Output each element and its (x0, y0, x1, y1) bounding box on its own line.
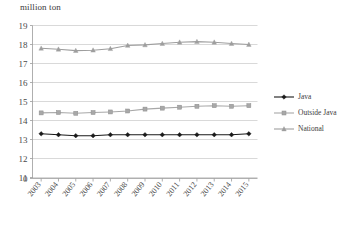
data-point (56, 111, 60, 115)
data-point (108, 110, 112, 114)
x-axis-tick-label: 2004 (43, 180, 60, 198)
data-point (229, 132, 234, 137)
data-point (143, 107, 147, 111)
data-point (74, 111, 78, 115)
legend-marker-icon (282, 111, 286, 115)
data-point (143, 132, 148, 137)
data-point (91, 111, 95, 115)
y-axis-tick-label: 17 (19, 59, 29, 69)
y-axis-tick-label: 12 (19, 154, 28, 164)
y-axis-tick-label: 15 (19, 97, 29, 107)
data-point (212, 132, 217, 137)
data-point (195, 104, 199, 108)
x-axis-tick-label: 2013 (199, 180, 216, 198)
legend-marker-icon (282, 95, 287, 100)
x-axis-tick-label: 2007 (95, 180, 112, 198)
y-axis-tick-label: 14 (19, 116, 29, 126)
x-axis-tick-label: 2011 (164, 180, 181, 198)
legend-label: Java (298, 92, 312, 101)
data-point (91, 133, 96, 138)
x-axis-tick-label: 2014 (216, 180, 233, 198)
data-point (247, 132, 252, 137)
data-point (126, 109, 130, 113)
legend-item-java[interactable]: Java (274, 92, 312, 101)
y-axis-tick-label: 13 (19, 135, 29, 145)
legend-item-outside-java[interactable]: Outside Java (274, 108, 337, 117)
y-axis-tick-label: 0 (23, 174, 28, 184)
legend-label: Outside Java (298, 108, 337, 117)
x-axis-tick-label: 2003 (26, 180, 43, 198)
data-point (212, 104, 216, 108)
data-point (160, 132, 165, 137)
data-point (160, 106, 164, 110)
y-axis-tick-label: 16 (19, 78, 29, 88)
y-axis-tick-label: 19 (19, 21, 29, 31)
data-point (108, 132, 113, 137)
series-outside-java (39, 104, 251, 116)
legend-item-national[interactable]: National (274, 124, 324, 133)
x-axis-tick-label: 2009 (130, 180, 147, 198)
data-point (39, 111, 43, 115)
y-axis-tick-label: 18 (19, 40, 29, 50)
series-java (39, 132, 251, 139)
data-point (56, 132, 61, 137)
data-point (177, 132, 182, 137)
data-point (178, 105, 182, 109)
x-axis-tick-label: 2015 (233, 180, 250, 198)
data-point (125, 132, 130, 137)
chart-canvas: 1918171615141312110200320042005200620072… (0, 0, 362, 228)
x-axis-tick-label: 2008 (112, 180, 129, 198)
x-axis-tick-label: 2012 (182, 180, 199, 198)
data-point (247, 104, 251, 108)
series-national (39, 39, 251, 52)
data-point (39, 132, 44, 137)
data-point (230, 104, 234, 108)
x-axis-tick-label: 2005 (60, 180, 77, 198)
x-axis-tick-label: 2006 (78, 180, 95, 198)
x-axis-tick-label: 2010 (147, 180, 164, 198)
data-point (73, 133, 78, 138)
data-point (195, 132, 200, 137)
legend-label: National (298, 124, 324, 133)
line-chart: million ton 1918171615141312110200320042… (0, 0, 362, 228)
